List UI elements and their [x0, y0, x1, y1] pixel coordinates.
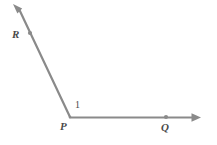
point-label-p: P: [60, 121, 67, 132]
point-r-dot: [28, 31, 32, 35]
angle-label-1: 1: [75, 100, 80, 110]
ray-pq-arrowhead-icon: [192, 113, 202, 122]
point-label-r: R: [12, 29, 19, 40]
ray-pr-line: [19, 9, 70, 117]
geometry-figure: R P Q 1: [0, 0, 217, 145]
vertex-p-dot: [69, 116, 72, 119]
point-q-dot: [164, 115, 168, 119]
point-label-q: Q: [161, 122, 169, 133]
geometry-canvas: [0, 0, 217, 145]
ray-pq: [70, 113, 201, 122]
ray-pr: [13, 4, 70, 117]
